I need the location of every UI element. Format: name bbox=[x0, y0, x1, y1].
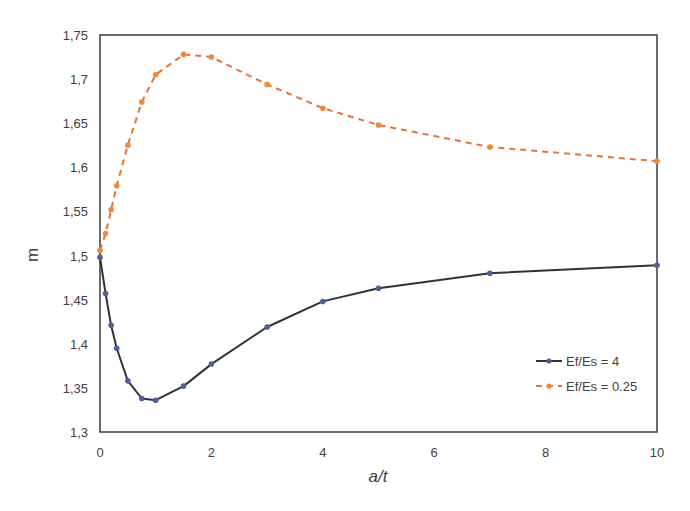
data-point-marker bbox=[209, 361, 215, 367]
legend-marker-circle bbox=[546, 358, 551, 363]
data-point-marker bbox=[103, 231, 109, 237]
data-point-marker bbox=[654, 262, 660, 268]
data-point-marker bbox=[487, 144, 493, 150]
data-point-marker bbox=[97, 255, 103, 261]
y-tick-label: 1,5 bbox=[70, 249, 88, 264]
legend-label: Ef/Es = 4 bbox=[566, 354, 619, 369]
data-point-marker bbox=[139, 99, 145, 105]
x-axis-title: a/t bbox=[369, 467, 389, 486]
data-point-marker bbox=[103, 291, 109, 297]
data-point-marker bbox=[114, 183, 120, 189]
line-chart: 1,31,351,41,451,51,551,61,651,71,75 0246… bbox=[0, 0, 690, 511]
y-tick-label: 1,75 bbox=[63, 28, 88, 43]
x-tick-label: 6 bbox=[431, 445, 438, 460]
legend-label: Ef/Es = 0.25 bbox=[566, 379, 637, 394]
data-point-marker bbox=[487, 270, 493, 276]
data-point-marker bbox=[376, 285, 382, 291]
data-point-marker bbox=[125, 142, 131, 148]
y-axis-ticks: 1,31,351,41,451,51,551,61,651,71,75 bbox=[63, 28, 88, 440]
y-tick-label: 1,45 bbox=[63, 293, 88, 308]
x-tick-label: 0 bbox=[96, 445, 103, 460]
x-tick-label: 2 bbox=[208, 445, 215, 460]
y-tick-label: 1,65 bbox=[63, 116, 88, 131]
data-point-marker bbox=[376, 122, 382, 128]
data-point-marker bbox=[153, 72, 159, 78]
data-point-marker bbox=[209, 54, 215, 60]
data-point-marker bbox=[320, 299, 326, 305]
data-point-marker bbox=[108, 322, 114, 328]
data-point-marker bbox=[320, 105, 326, 111]
data-point-marker bbox=[153, 397, 159, 403]
data-point-marker bbox=[97, 247, 103, 253]
y-tick-label: 1,3 bbox=[70, 425, 88, 440]
data-point-marker bbox=[264, 82, 270, 88]
x-tick-label: 8 bbox=[542, 445, 549, 460]
data-point-marker bbox=[125, 378, 131, 384]
y-tick-label: 1,4 bbox=[70, 337, 88, 352]
y-axis-title: m bbox=[23, 248, 42, 262]
data-point-marker bbox=[264, 324, 270, 330]
x-axis-ticks: 0246810 bbox=[96, 445, 664, 460]
y-tick-label: 1,55 bbox=[63, 204, 88, 219]
x-tick-label: 4 bbox=[319, 445, 326, 460]
y-tick-label: 1,6 bbox=[70, 160, 88, 175]
data-point-marker bbox=[654, 158, 660, 164]
plot-frame bbox=[100, 35, 657, 432]
data-point-marker bbox=[108, 207, 114, 213]
data-point-marker bbox=[181, 52, 187, 58]
data-point-marker bbox=[181, 383, 187, 389]
y-tick-label: 1,35 bbox=[63, 381, 88, 396]
data-point-marker bbox=[139, 396, 145, 402]
plot-area bbox=[100, 35, 657, 432]
x-tick-label: 10 bbox=[650, 445, 664, 460]
legend-marker-circle bbox=[546, 383, 551, 388]
data-point-marker bbox=[114, 345, 120, 351]
y-tick-label: 1,7 bbox=[70, 72, 88, 87]
